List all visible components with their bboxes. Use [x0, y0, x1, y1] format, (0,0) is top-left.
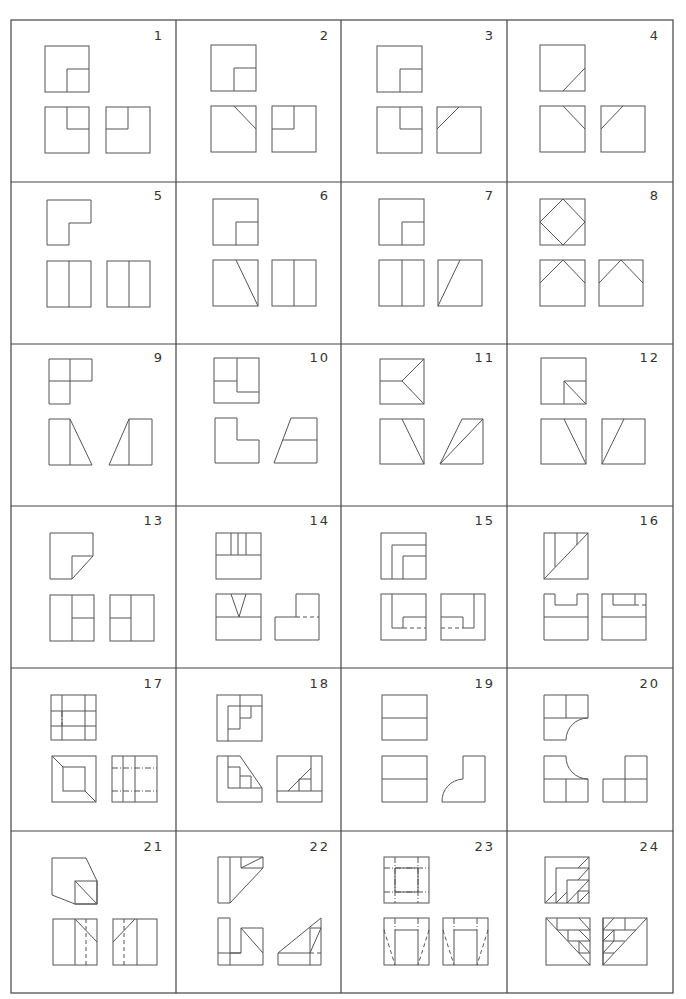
cell-number: 14 [309, 513, 330, 528]
exercise-cell-18: 18 [217, 676, 330, 802]
exercise-cell-5: 5 [47, 188, 164, 307]
cell-number: 16 [639, 513, 660, 528]
exercise-cell-11: 11 [380, 350, 495, 464]
cell-number: 9 [154, 350, 164, 365]
cell-number: 18 [309, 676, 330, 691]
exercise-cell-23: 23 [384, 839, 495, 965]
exercise-cell-8: 8 [540, 188, 660, 306]
cell-number: 13 [143, 513, 164, 528]
exercise-cell-22: 22 [218, 839, 330, 965]
grid-lines [11, 20, 673, 993]
exercise-cell-21: 21 [52, 839, 164, 965]
cell-number: 5 [154, 188, 164, 203]
cell-number: 24 [639, 839, 660, 854]
drawing-canvas: 1 2 3 [0, 0, 686, 999]
exercise-cell-4: 4 [540, 28, 660, 152]
exercise-cell-19: 19 [382, 676, 495, 802]
cell-number: 8 [650, 188, 660, 203]
exercise-cell-24: 24 [545, 839, 660, 965]
exercise-cell-2: 2 [211, 28, 330, 152]
exercise-cell-3: 3 [377, 28, 495, 153]
cell-number: 17 [143, 676, 164, 691]
exercise-cell-20: 20 [544, 676, 660, 802]
cell-number: 1 [154, 28, 164, 43]
cell-number: 6 [320, 188, 330, 203]
exercise-cell-14: 14 [216, 513, 330, 640]
cell-number: 2 [320, 28, 330, 43]
cell-number: 10 [309, 350, 330, 365]
cell-number: 12 [639, 350, 660, 365]
exercise-cell-12: 12 [541, 350, 660, 464]
cell-number: 4 [650, 28, 660, 43]
cell-number: 20 [639, 676, 660, 691]
exercise-cell-15: 15 [381, 513, 495, 640]
exercise-cell-10: 10 [214, 350, 330, 463]
exercise-cell-16: 16 [544, 513, 660, 640]
exercise-cell-1: 1 [45, 28, 164, 153]
exercise-cell-7: 7 [379, 188, 495, 306]
exercise-cell-17: 17 [51, 676, 164, 802]
cell-number: 22 [309, 839, 330, 854]
exercise-cell-6: 6 [213, 188, 330, 306]
cell-number: 21 [143, 839, 164, 854]
cell-number: 19 [474, 676, 495, 691]
exercise-cell-9: 9 [49, 350, 164, 465]
cell-number: 3 [485, 28, 495, 43]
cell-number: 7 [485, 188, 495, 203]
cell-number: 11 [474, 350, 495, 365]
cell-number: 23 [474, 839, 495, 854]
exercise-cell-13: 13 [50, 513, 164, 641]
exercise-sheet: 1 2 3 [0, 0, 686, 999]
cell-number: 15 [474, 513, 495, 528]
